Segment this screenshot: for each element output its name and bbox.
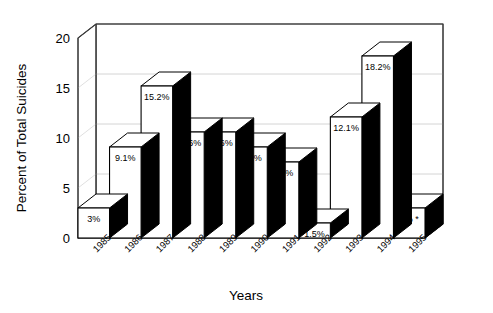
y-axis-title: Percent of Total Suicides <box>14 64 29 213</box>
bar-side-face <box>236 118 254 238</box>
chart-container: 0 5 10 15 20 Percent of Total Suicides 3… <box>0 0 493 313</box>
bar-side-face <box>299 148 317 238</box>
bar-value-label: 9.1% <box>115 153 136 163</box>
bar-side-face <box>173 72 191 238</box>
y-tick-label-2: 10 <box>56 131 70 146</box>
bar-side-face <box>393 42 411 238</box>
bar-side-face <box>267 133 285 238</box>
bar-side-face <box>141 133 159 238</box>
y-tick-label-1: 5 <box>63 181 70 196</box>
bar-value-label: 3% <box>87 214 100 224</box>
y-tick-label-0: 0 <box>63 231 70 246</box>
y-axis-ticks: 0 5 10 15 20 <box>56 31 70 246</box>
bar-side-face <box>204 118 222 238</box>
y-tick-label-4: 20 <box>56 31 70 46</box>
bar-side-face <box>362 103 380 238</box>
bar-chart: 0 5 10 15 20 Percent of Total Suicides 3… <box>0 0 493 313</box>
bar-value-label: 12.1% <box>333 123 359 133</box>
bar-value-label: 15.2% <box>144 92 170 102</box>
y-tick-label-3: 15 <box>56 81 70 96</box>
x-axis-title: Years <box>229 288 263 303</box>
bar-value-label: 18.2% <box>365 62 391 72</box>
